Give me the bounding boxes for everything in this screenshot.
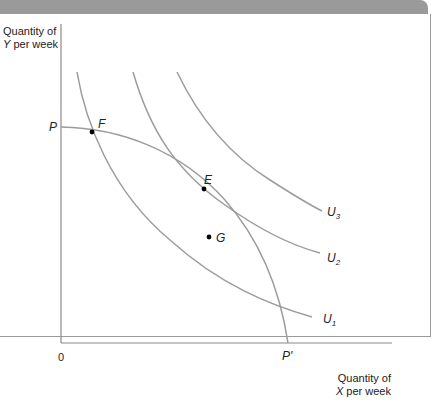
point-f-marker [90, 130, 95, 135]
indifference-curve-u3 [177, 72, 322, 211]
point-f-label: F [98, 117, 105, 131]
u2-label: U2 [327, 251, 340, 267]
x-axis-label: Quantity of X per week [340, 372, 391, 398]
u1-label: U1 [323, 312, 336, 328]
diagram-canvas [0, 0, 440, 409]
point-g-label: G [216, 231, 225, 245]
u1-base: U [323, 312, 332, 326]
ppf-curve [61, 127, 288, 343]
x-axis-label-line2: X per week [320, 385, 391, 398]
indifference-curve-u2 [133, 72, 320, 253]
point-g-marker [207, 235, 212, 240]
x-axis-label-line1: Quantity of [320, 372, 391, 385]
u3-sub: 3 [336, 212, 340, 221]
x-rest: per week [343, 385, 391, 397]
ppf-start-label: P [49, 120, 57, 134]
u3-label: U3 [327, 205, 340, 221]
point-e-label: E [204, 173, 212, 187]
u1-sub: 1 [332, 319, 336, 328]
origin-label: 0 [58, 351, 64, 364]
y-axis-label-line1: Quantity of [3, 25, 58, 38]
y-rest: per week [10, 38, 58, 50]
ppf-end-label: P' [282, 349, 292, 363]
u2-sub: 2 [336, 258, 340, 267]
point-e-marker [202, 187, 207, 192]
y-axis-label-line2: Y per week [3, 38, 58, 51]
u2-base: U [327, 251, 336, 265]
indifference-curve-u1 [77, 72, 312, 317]
u3-base: U [327, 205, 336, 219]
y-axis-label: Quantity of Y per week [3, 25, 58, 51]
